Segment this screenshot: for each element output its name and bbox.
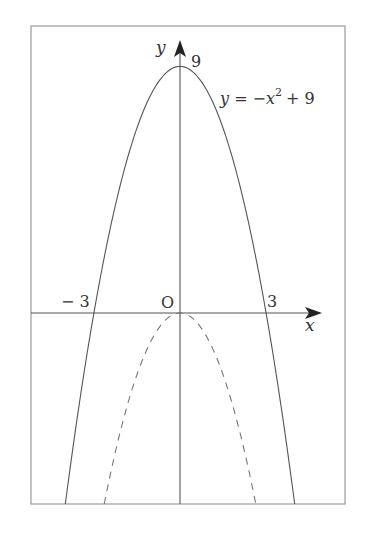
equation-label: y = −x2+ 9 <box>219 86 315 108</box>
svg-text:y = −x2+ 9: y = −x2+ 9 <box>219 86 315 108</box>
y-axis-label: y <box>155 37 166 57</box>
x-pos-3-label: 3 <box>267 292 277 311</box>
equation-lhs: y = −x <box>219 89 275 108</box>
x-axis-label: x <box>305 315 315 335</box>
y-intercept-label: 9 <box>191 52 201 71</box>
origin-label: O <box>161 293 174 312</box>
parabola-diagram: y x O 9 − 3 3 y = −x2+ 9 <box>0 0 366 536</box>
equation-rhs: + 9 <box>286 89 315 108</box>
x-neg-3-label: − 3 <box>61 292 90 311</box>
equation-exponent: 2 <box>275 86 282 99</box>
